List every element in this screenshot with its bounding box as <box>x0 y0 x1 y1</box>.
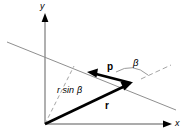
projection-label-greek: β <box>77 85 82 95</box>
vector-projection-figure: y x p r β r sinβ <box>0 0 184 137</box>
projection-label-text: r sin <box>57 85 74 95</box>
vector-p-label: p <box>107 62 113 72</box>
vector-p-shaft <box>96 74 131 83</box>
x-axis-arrowhead <box>163 121 172 128</box>
vector-r-label: r <box>105 101 109 111</box>
y-axis-label: y <box>40 2 45 11</box>
y-axis-arrowhead <box>42 13 49 22</box>
oblique-line <box>7 42 176 110</box>
angle-beta-arc <box>116 68 148 75</box>
x-axis-label: x <box>175 119 180 128</box>
dashed-construction-line <box>45 66 74 124</box>
reference-ray <box>141 65 171 79</box>
projection-label: r sinβ <box>57 86 82 95</box>
figure-canvas <box>0 0 184 137</box>
angle-beta-label: β <box>133 58 138 68</box>
